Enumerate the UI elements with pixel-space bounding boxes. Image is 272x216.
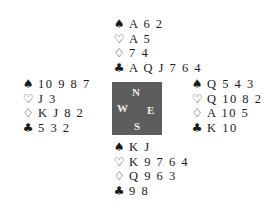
north-spades-cards: A 6 2 — [129, 17, 164, 31]
north-diamonds-cards: 7 4 — [129, 46, 149, 60]
club-icon: ♣ — [113, 61, 127, 75]
east-clubs-cards: K 10 — [207, 121, 238, 135]
west-clubs-cards: 5 3 2 — [38, 121, 71, 135]
south-clubs-cards: 9 8 — [129, 184, 149, 198]
spade-icon: ♠ — [191, 77, 205, 91]
club-icon: ♣ — [113, 184, 127, 198]
compass-box: N W E S — [112, 82, 162, 135]
club-icon: ♣ — [191, 121, 205, 135]
heart-icon: ♡ — [113, 155, 127, 169]
compass-north-label: N — [132, 86, 140, 98]
heart-icon: ♡ — [22, 92, 36, 106]
west-hearts-cards: J 3 — [38, 92, 57, 106]
heart-icon: ♡ — [113, 32, 127, 46]
south-spades-cards: K J — [129, 140, 151, 154]
east-diamonds-cards: A 10 5 — [207, 106, 249, 120]
diamond-icon: ♢ — [113, 169, 127, 183]
diamond-icon: ♢ — [22, 106, 36, 120]
spade-icon: ♠ — [113, 17, 127, 31]
club-icon: ♣ — [22, 121, 36, 135]
west-spades-cards: 10 9 8 7 — [38, 77, 91, 91]
compass-south-label: S — [134, 120, 140, 132]
east-hearts-cards: Q 10 8 2 — [207, 92, 262, 106]
heart-icon: ♡ — [191, 92, 205, 106]
spade-icon: ♠ — [113, 140, 127, 154]
north-clubs-cards: A Q J 7 6 4 — [129, 61, 202, 75]
spade-icon: ♠ — [22, 77, 36, 91]
diamond-icon: ♢ — [113, 46, 127, 60]
east-spades-cards: Q 5 4 3 — [207, 77, 255, 91]
compass-east-label: E — [147, 104, 154, 116]
south-diamonds-cards: Q 9 6 3 — [129, 169, 177, 183]
diamond-icon: ♢ — [191, 106, 205, 120]
north-hearts-cards: A 5 — [129, 32, 151, 46]
west-diamonds-cards: K J 8 2 — [38, 106, 84, 120]
compass-west-label: W — [117, 102, 128, 114]
south-hearts-cards: K 9 7 6 4 — [129, 155, 189, 169]
